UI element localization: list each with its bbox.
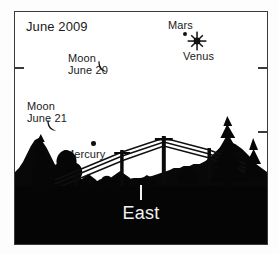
tick-mark-right-upper: [258, 67, 267, 69]
tick-mark-left-upper: [15, 67, 24, 69]
venus-label: Venus: [183, 50, 214, 62]
sky-chart: June 2009 Mars Venus MoonJune 20 MoonJun…: [14, 11, 268, 245]
venus-starburst-icon: [187, 31, 207, 51]
sky-area: June 2009 Mars Venus MoonJune 20 MoonJun…: [15, 12, 267, 244]
moon-june-20-line1: Moon: [68, 52, 96, 64]
east-direction-label: East: [15, 203, 267, 223]
east-tick-mark: [140, 185, 142, 200]
mars-label: Mars: [168, 19, 193, 31]
moon-crescent-june-20-icon: [97, 60, 108, 73]
chart-title: June 2009: [26, 20, 88, 34]
